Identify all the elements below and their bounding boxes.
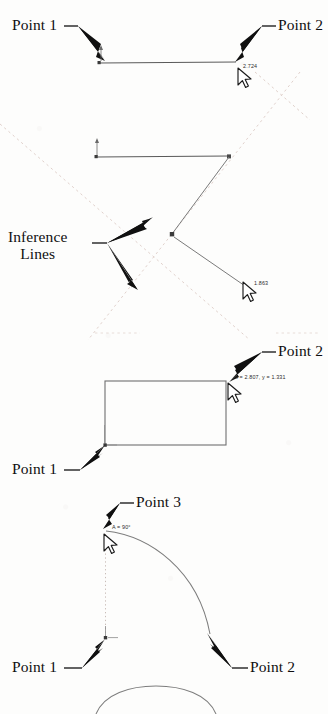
angle-readout: A = 90° [112, 524, 131, 530]
sketch-line-horizontal [96, 156, 229, 157]
leader-arrow-point-1-body [80, 445, 105, 470]
panel-arc-next-cropped [96, 686, 216, 714]
panel-line [64, 26, 310, 120]
leader-arrow-inference-lower-body [107, 243, 138, 290]
sketch-arc [106, 531, 210, 634]
callout-point-2: Point 2 [250, 658, 295, 675]
leader-arrow-point-1 [82, 640, 104, 668]
mouse-cursor [228, 383, 241, 402]
inference-line-down-left [88, 72, 300, 340]
inference-line-diagonal [255, 72, 310, 120]
panel-inference [0, 72, 300, 340]
length-readout: 1.863 [254, 280, 268, 286]
panel-arc [64, 503, 248, 668]
inference-label-line-2: Lines [8, 245, 67, 262]
callout-point-2: Point 2 [278, 16, 323, 33]
callout-point-3: Point 3 [136, 493, 181, 510]
sketch-line [99, 62, 236, 63]
endpoint-node-left [95, 155, 98, 158]
mouse-cursor [238, 68, 251, 87]
vertex-node [170, 232, 174, 236]
callout-point-1: Point 1 [12, 16, 57, 33]
arc-node-base [104, 636, 107, 639]
leader-arrow-point-1-body [82, 639, 105, 668]
callout-point-2: Point 2 [278, 342, 323, 359]
inference-tick-arrowhead [95, 138, 99, 143]
callout-point-1: Point 1 [12, 460, 57, 477]
sketch-rectangle [105, 381, 226, 445]
sketch-line-angled-lower [174, 237, 248, 288]
sketch-arc-partial [96, 686, 216, 714]
callout-inference-lines: Inference Lines [8, 228, 67, 263]
callout-point-1: Point 1 [12, 658, 57, 675]
sketch-line-angled-upper [172, 157, 229, 234]
leader-arrow-point-2 [208, 634, 232, 668]
inference-label-line-1: Inference [8, 228, 67, 245]
leader-arrow-point-2-body [207, 633, 232, 668]
coordinate-readout: x = 2.807, y = 1.331 [235, 374, 286, 380]
length-readout: 2.724 [243, 63, 257, 69]
endpoint-node-start [98, 61, 101, 64]
